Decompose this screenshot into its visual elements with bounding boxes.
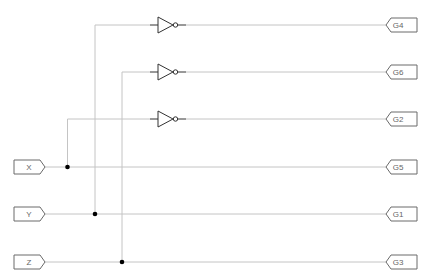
wires — [45, 25, 386, 262]
output-port-g2[interactable]: G2 — [386, 112, 417, 126]
not-gate-g2 — [150, 111, 186, 127]
output-label: G4 — [393, 21, 404, 30]
output-label: G2 — [393, 115, 404, 124]
input-label: Z — [27, 258, 32, 267]
not-gate-triangle-icon — [158, 64, 173, 80]
input-port-z[interactable]: Z — [14, 255, 45, 269]
output-label: G5 — [393, 163, 404, 172]
junction-dot — [120, 260, 125, 265]
junction-dot — [65, 165, 70, 170]
input-port-x[interactable]: X — [14, 160, 45, 174]
output-port-g1[interactable]: G1 — [386, 207, 417, 221]
not-gate-triangle-icon — [158, 111, 173, 127]
gates — [150, 17, 186, 127]
input-label: Y — [26, 210, 32, 219]
output-port-g6[interactable]: G6 — [386, 65, 417, 79]
not-gate-g6 — [150, 64, 186, 80]
input-label: X — [26, 163, 32, 172]
output-ports: G4G6G2G5G1G3 — [386, 18, 417, 269]
output-port-g5[interactable]: G5 — [386, 160, 417, 174]
output-label: G1 — [393, 210, 404, 219]
not-gate-g4 — [150, 17, 186, 33]
schematic-canvas: XYZ G4G6G2G5G1G3 — [0, 0, 430, 278]
input-ports: XYZ — [14, 160, 45, 269]
output-port-g3[interactable]: G3 — [386, 255, 417, 269]
inversion-bubble-icon — [173, 117, 177, 121]
output-label: G6 — [393, 68, 404, 77]
inversion-bubble-icon — [173, 70, 177, 74]
inversion-bubble-icon — [173, 23, 177, 27]
not-gate-triangle-icon — [158, 17, 173, 33]
input-port-y[interactable]: Y — [14, 207, 45, 221]
output-port-g4[interactable]: G4 — [386, 18, 417, 32]
junction-dot — [93, 212, 98, 217]
output-label: G3 — [393, 258, 404, 267]
